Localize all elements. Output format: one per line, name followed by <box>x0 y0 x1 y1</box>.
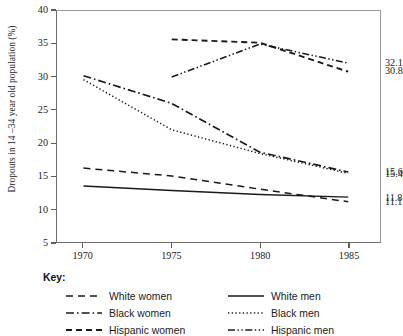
end-label-black-men: 15.4 <box>385 168 403 179</box>
legend-line-swatch <box>228 308 264 318</box>
legend-line-swatch <box>66 308 102 318</box>
legend-item-white-men[interactable]: White men <box>228 288 334 304</box>
y-tick-label: 10 <box>38 203 48 217</box>
y-tick-label: 25 <box>38 103 48 117</box>
y-tick-label: 35 <box>38 36 48 50</box>
series-line-white-men <box>83 186 348 197</box>
x-tick-mark <box>171 243 172 248</box>
plot-area <box>56 10 381 243</box>
y-tick-label: 5 <box>43 236 48 250</box>
x-tick-label: 1975 <box>151 250 191 261</box>
cut-off-caption <box>44 326 47 336</box>
legend-line-swatch <box>228 325 264 335</box>
x-tick-label: 1980 <box>240 250 280 261</box>
y-tick-label: 15 <box>38 169 48 183</box>
x-tick-mark <box>348 243 349 248</box>
legend-item-hispanic-women[interactable]: Hispanic women <box>66 322 185 336</box>
legend-item-hispanic-men[interactable]: Hispanic men <box>228 322 334 336</box>
legend-line-swatch <box>228 291 264 301</box>
y-tick-label: 30 <box>38 70 48 84</box>
legend: Key: White womenBlack womenHispanic wome… <box>0 272 402 336</box>
legend-item-label: Black women <box>109 308 171 319</box>
legend-line-swatch <box>66 325 102 335</box>
legend-title: Key: <box>43 272 66 283</box>
legend-line-swatch <box>66 291 102 301</box>
y-tick-label: 40 <box>38 3 48 17</box>
legend-column-women: White womenBlack womenHispanic women <box>66 288 185 336</box>
y-tick-label: 20 <box>38 136 48 150</box>
x-tick-mark <box>260 243 261 248</box>
y-axis-title: Dropouts in 14 –34 year old population (… <box>7 0 17 229</box>
series-lines <box>57 11 380 242</box>
end-label-hispanic-men: 32.1 <box>385 57 403 68</box>
series-line-white-women <box>83 168 348 202</box>
x-tick-mark <box>82 243 83 248</box>
end-label-white-men: 11.8 <box>385 192 402 203</box>
legend-item-label: White women <box>109 291 172 302</box>
legend-column-men: White menBlack menHispanic men <box>228 288 334 336</box>
x-tick-label: 1985 <box>329 250 369 261</box>
x-tick-label: 1970 <box>63 250 103 261</box>
legend-item-label: Hispanic women <box>109 325 185 336</box>
series-line-hispanic-women <box>172 39 348 71</box>
legend-item-label: White men <box>271 291 321 302</box>
legend-item-label: Black men <box>271 308 320 319</box>
legend-item-label: Hispanic men <box>271 325 334 336</box>
series-line-black-men <box>83 80 348 174</box>
series-line-black-women <box>83 76 348 172</box>
legend-item-black-men[interactable]: Black men <box>228 305 334 321</box>
legend-item-black-women[interactable]: Black women <box>66 305 185 321</box>
legend-item-white-women[interactable]: White women <box>66 288 185 304</box>
series-line-hispanic-men <box>172 44 348 77</box>
